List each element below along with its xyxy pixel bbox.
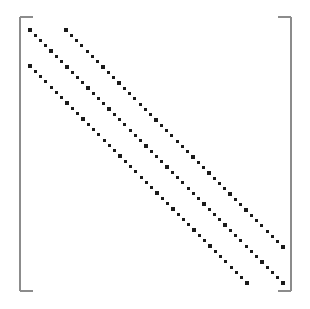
matrix-dot bbox=[65, 65, 68, 68]
matrix-dot bbox=[92, 128, 95, 131]
matrix-dot bbox=[187, 223, 190, 226]
matrix-dot bbox=[34, 70, 37, 73]
matrix-dot bbox=[108, 144, 111, 147]
matrix-dot bbox=[208, 244, 211, 247]
matrix-dot bbox=[255, 255, 258, 258]
matrix-dot bbox=[81, 81, 84, 84]
matrix-dot bbox=[107, 71, 110, 74]
matrix-dot bbox=[76, 76, 79, 79]
matrix-dot bbox=[234, 198, 237, 201]
diagonal-band-sub-diagonal bbox=[28, 64, 248, 284]
matrix-dot bbox=[166, 202, 169, 205]
matrix-nonzero-entries bbox=[28, 28, 284, 284]
matrix-dot bbox=[123, 123, 126, 126]
matrix-dot bbox=[224, 260, 227, 263]
matrix-dot bbox=[86, 86, 89, 89]
matrix-dot bbox=[80, 44, 83, 47]
matrix-dot bbox=[60, 96, 63, 99]
matrix-dot bbox=[75, 39, 78, 42]
matrix-dot bbox=[149, 113, 152, 116]
matrix-dot bbox=[255, 219, 258, 222]
matrix-dot bbox=[192, 192, 195, 195]
matrix-dot bbox=[245, 281, 248, 284]
matrix-dot bbox=[240, 276, 243, 279]
matrix-dot bbox=[250, 250, 253, 253]
matrix-dot bbox=[245, 245, 248, 248]
matrix-dot bbox=[39, 75, 42, 78]
matrix-dot bbox=[202, 202, 205, 205]
matrix-dot bbox=[150, 186, 153, 189]
matrix-dot bbox=[154, 118, 157, 121]
matrix-dot bbox=[161, 197, 164, 200]
matrix-dot bbox=[87, 123, 90, 126]
matrix-dot bbox=[144, 144, 147, 147]
matrix-dot bbox=[133, 97, 136, 100]
matrix-dot bbox=[107, 107, 110, 110]
matrix-dot bbox=[81, 117, 84, 120]
matrix-dot bbox=[97, 133, 100, 136]
matrix-dot bbox=[76, 112, 79, 115]
matrix-dot bbox=[165, 129, 168, 132]
matrix-dot bbox=[197, 161, 200, 164]
diagonal-band-main-diagonal bbox=[28, 28, 284, 284]
matrix-dot bbox=[118, 154, 121, 157]
matrix-dot bbox=[71, 71, 74, 74]
matrix-dot bbox=[239, 203, 242, 206]
matrix-dot bbox=[281, 245, 284, 248]
matrix-dot bbox=[228, 192, 231, 195]
matrix-dot bbox=[145, 181, 148, 184]
matrix-dot bbox=[182, 218, 185, 221]
matrix-dot bbox=[103, 139, 106, 142]
matrix-dot bbox=[118, 118, 121, 121]
matrix-dot bbox=[271, 235, 274, 238]
matrix-dot bbox=[170, 134, 173, 137]
matrix-dot bbox=[223, 187, 226, 190]
matrix-dot bbox=[113, 113, 116, 116]
matrix-dot bbox=[218, 218, 221, 221]
matrix-dot bbox=[230, 266, 233, 269]
matrix-dot bbox=[128, 92, 131, 95]
matrix-dot bbox=[181, 145, 184, 148]
matrix-dot bbox=[134, 134, 137, 137]
matrix-dot bbox=[208, 208, 211, 211]
matrix-dot bbox=[202, 166, 205, 169]
matrix-dot bbox=[260, 260, 263, 263]
matrix-dot bbox=[28, 64, 31, 67]
matrix-dot bbox=[101, 65, 104, 68]
matrix-dot bbox=[223, 223, 226, 226]
matrix-dot bbox=[39, 39, 42, 42]
matrix-dot bbox=[239, 239, 242, 242]
matrix-dot bbox=[171, 171, 174, 174]
matrix-dot bbox=[229, 229, 232, 232]
matrix-dot bbox=[160, 160, 163, 163]
matrix-dot bbox=[44, 80, 47, 83]
matrix-dot bbox=[113, 149, 116, 152]
matrix-dot bbox=[276, 276, 279, 279]
matrix-dot bbox=[91, 55, 94, 58]
matrix-dot bbox=[281, 281, 284, 284]
matrix-dot bbox=[34, 34, 37, 37]
matrix-dot bbox=[150, 150, 153, 153]
matrix-dot bbox=[129, 165, 132, 168]
matrix-dot bbox=[191, 155, 194, 158]
matrix-dot bbox=[92, 92, 95, 95]
matrix-dot bbox=[203, 239, 206, 242]
matrix-figure bbox=[0, 0, 310, 309]
matrix-dot bbox=[165, 165, 168, 168]
matrix-dot bbox=[155, 155, 158, 158]
matrix-dot bbox=[181, 181, 184, 184]
matrix-dot bbox=[214, 250, 217, 253]
matrix-dot bbox=[250, 214, 253, 217]
matrix-dot bbox=[218, 182, 221, 185]
matrix-dot bbox=[235, 271, 238, 274]
matrix-dot bbox=[213, 213, 216, 216]
matrix-dot bbox=[219, 255, 222, 258]
matrix-dot bbox=[266, 230, 269, 233]
matrix-dot bbox=[124, 160, 127, 163]
matrix-dot bbox=[28, 28, 31, 31]
matrix-dot bbox=[134, 170, 137, 173]
matrix-dot bbox=[213, 177, 216, 180]
matrix-dot bbox=[260, 224, 263, 227]
matrix-dot bbox=[198, 234, 201, 237]
matrix-dot bbox=[192, 228, 195, 231]
